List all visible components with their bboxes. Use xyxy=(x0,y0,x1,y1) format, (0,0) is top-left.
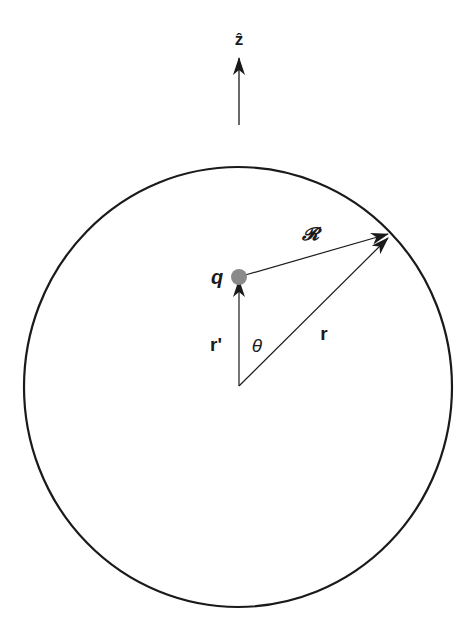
separation-vector-label: 𝓡 xyxy=(301,224,322,244)
charge-label: q xyxy=(211,266,223,288)
sphere-outline xyxy=(24,167,452,607)
z-axis-label: ẑ xyxy=(235,30,244,49)
vector-r xyxy=(239,238,388,386)
diagram-canvas: ẑ q 𝓡 r' θ r xyxy=(0,0,470,630)
source-vector-label: r' xyxy=(210,334,222,355)
angle-label: θ xyxy=(252,335,263,356)
charge-dot xyxy=(231,269,247,285)
field-vector-label: r xyxy=(320,323,328,344)
